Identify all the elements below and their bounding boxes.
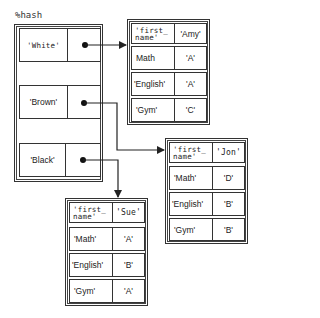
- field-key: Math: [132, 47, 175, 69]
- record-sue-row-math: 'Math' 'A': [69, 227, 145, 251]
- field-key: 'English': [170, 193, 213, 215]
- field-value: 'B': [213, 193, 244, 215]
- arrow-black-to-sue: [83, 160, 118, 197]
- field-key: 'Gym': [170, 219, 213, 240]
- field-key: 'Gym': [132, 99, 175, 121]
- record-jon-row-english: 'English' 'B': [169, 192, 245, 216]
- field-value: 'A': [113, 280, 144, 302]
- field-value: 'C': [175, 99, 206, 121]
- field-value: 'D': [213, 167, 244, 189]
- record-sue-row-english: 'English' 'B': [69, 253, 145, 277]
- field-value: 'Jon': [213, 143, 244, 162]
- field-value: 'B': [113, 254, 144, 276]
- field-key: 'English': [132, 73, 175, 95]
- field-value: 'A': [175, 73, 206, 95]
- record-jon-row-math: 'Math' 'D': [169, 166, 245, 190]
- field-key: 'Gym': [70, 280, 113, 302]
- record-amy-row-first-name: 'first_ name' 'Amy': [131, 23, 207, 44]
- field-key: 'Math': [170, 167, 213, 189]
- record-jon-row-first-name: 'first_ name' 'Jon': [169, 142, 245, 163]
- field-key: 'first_ name': [132, 24, 175, 43]
- field-key: 'first_ name': [170, 143, 213, 162]
- field-value: 'Amy': [175, 24, 206, 43]
- record-jon-row-gym: 'Gym' 'B': [169, 218, 245, 241]
- record-amy-row-english: 'English' 'A': [131, 72, 207, 96]
- field-value: 'A': [175, 47, 206, 69]
- field-key: 'first_ name': [70, 203, 113, 222]
- field-value: 'Sue': [113, 203, 144, 222]
- record-amy-row-math: Math 'A': [131, 46, 207, 70]
- record-sue-row-gym: 'Gym' 'A': [69, 279, 145, 303]
- field-key: 'Math': [70, 228, 113, 250]
- record-sue-row-first-name: 'first_ name' 'Sue': [69, 202, 145, 223]
- field-value: 'A': [113, 228, 144, 250]
- field-value: 'B': [213, 219, 244, 240]
- record-amy-row-gym: 'Gym' 'C': [131, 98, 207, 122]
- field-key: 'English': [70, 254, 113, 276]
